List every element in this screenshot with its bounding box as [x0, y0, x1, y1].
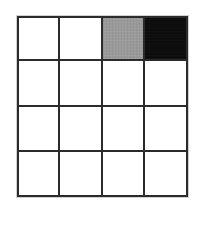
grid-cell-r2-c4	[145, 61, 188, 106]
grid-cell-r1-c1	[17, 16, 60, 61]
grid-cell-r4-c1	[17, 152, 60, 197]
grid-4x4	[17, 16, 188, 197]
grid-cell-r1-c3	[103, 16, 146, 61]
grid-cell-r2-c1	[17, 61, 60, 106]
grid-cell-r4-c3	[103, 152, 146, 197]
grid-cell-r3-c4	[145, 107, 188, 152]
grid-cell-r3-c3	[103, 107, 146, 152]
grid-cell-r1-c4	[145, 16, 188, 61]
grid-cell-r3-c2	[60, 107, 103, 152]
grid-cell-r2-c2	[60, 61, 103, 106]
grid-cell-r4-c2	[60, 152, 103, 197]
grid-cell-r2-c3	[103, 61, 146, 106]
grid-cell-r4-c4	[145, 152, 188, 197]
grid-cell-r1-c2	[60, 16, 103, 61]
figure-canvas	[0, 0, 200, 228]
grid-cell-r3-c1	[17, 107, 60, 152]
